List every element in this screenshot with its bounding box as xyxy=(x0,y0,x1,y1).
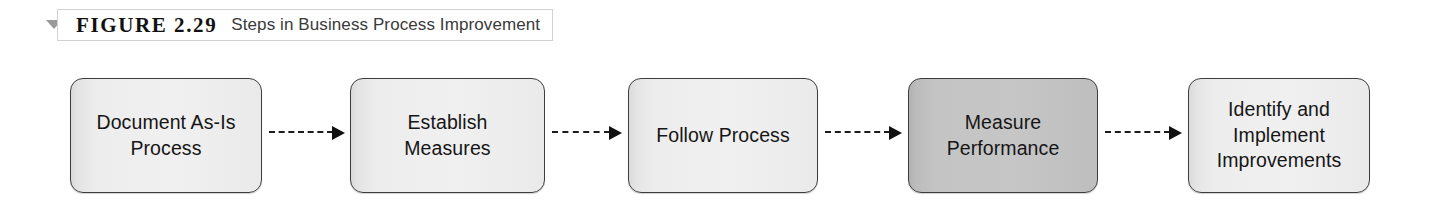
arrowhead-icon xyxy=(609,126,622,140)
connector-dashed-line xyxy=(269,131,333,133)
arrowhead-icon xyxy=(332,126,345,140)
connector-dashed-line xyxy=(552,131,610,133)
process-step-label: EstablishMeasures xyxy=(396,110,498,162)
process-step-measure-performance[interactable]: MeasurePerformance xyxy=(908,78,1098,193)
flow-connector-4 xyxy=(1105,126,1182,140)
process-step-follow-process[interactable]: Follow Process xyxy=(628,78,818,193)
process-step-label: Document As-IsProcess xyxy=(88,110,243,162)
process-step-document-as-is-process[interactable]: Document As-IsProcess xyxy=(70,78,262,193)
arrowhead-icon xyxy=(889,126,902,140)
flow-connector-2 xyxy=(552,126,622,140)
connector-dashed-line xyxy=(825,131,890,133)
process-step-label: Identify andImplementImprovements xyxy=(1209,97,1350,175)
arrowhead-icon xyxy=(1169,126,1182,140)
connector-dashed-line xyxy=(1105,131,1170,133)
process-step-identify-and-implement[interactable]: Identify andImplementImprovements xyxy=(1188,78,1370,193)
flow-connector-1 xyxy=(269,126,345,140)
process-flow-diagram: Document As-IsProcessEstablishMeasuresFo… xyxy=(0,0,1438,223)
process-step-establish-measures[interactable]: EstablishMeasures xyxy=(350,78,545,193)
process-step-label: MeasurePerformance xyxy=(939,110,1068,162)
process-step-label: Follow Process xyxy=(648,123,798,149)
flow-connector-3 xyxy=(825,126,902,140)
